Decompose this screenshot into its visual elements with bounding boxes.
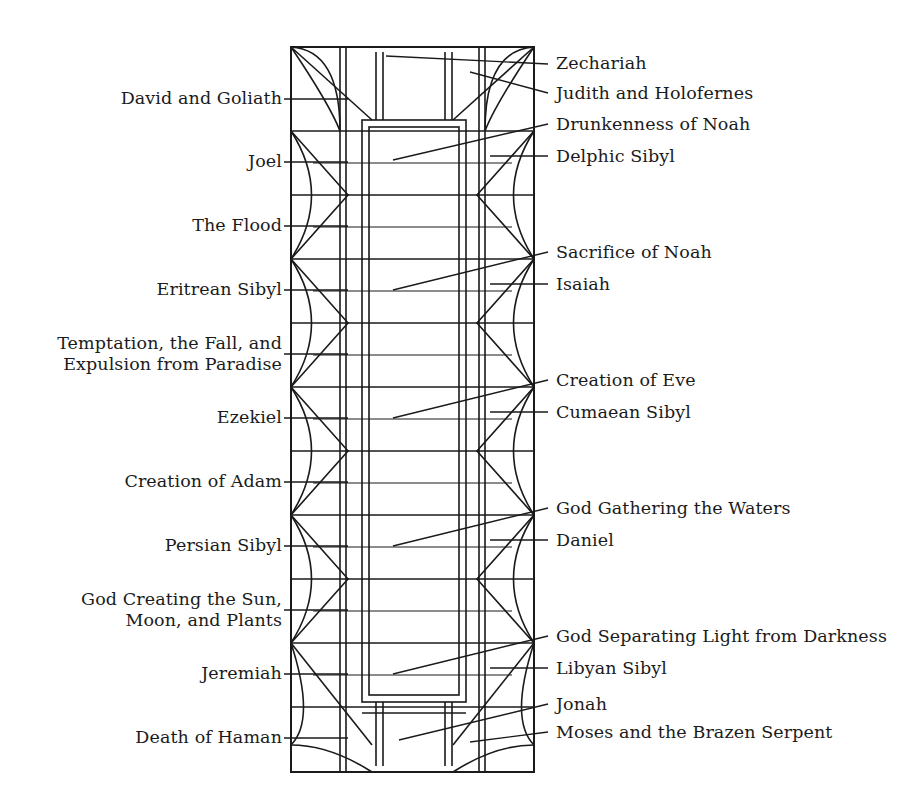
- label-daniel[interactable]: Daniel: [556, 530, 614, 551]
- label-joel[interactable]: Joel: [0, 151, 282, 172]
- label-zechariah[interactable]: Zechariah: [556, 53, 647, 74]
- label-death-of-haman[interactable]: Death of Haman: [0, 727, 282, 748]
- central-panel-frames: [362, 120, 466, 702]
- label-judith-and-holofernes[interactable]: Judith and Holofernes: [556, 83, 753, 104]
- label-the-flood[interactable]: The Flood: [0, 215, 282, 236]
- label-god-gathering-the-waters[interactable]: God Gathering the Waters: [556, 498, 791, 519]
- label-jonah[interactable]: Jonah: [556, 694, 607, 715]
- label-persian-sibyl[interactable]: Persian Sibyl: [0, 535, 282, 556]
- label-cumaean-sibyl[interactable]: Cumaean Sibyl: [556, 402, 691, 423]
- label-creation-of-adam[interactable]: Creation of Adam: [0, 471, 282, 492]
- label-moses-and-the-brazen-serpent[interactable]: Moses and the Brazen Serpent: [556, 722, 832, 743]
- left-spandrels: [291, 47, 372, 772]
- label-ezekiel[interactable]: Ezekiel: [0, 407, 282, 428]
- bay-inner-lines: [313, 163, 512, 675]
- label-delphic-sibyl[interactable]: Delphic Sibyl: [556, 146, 675, 167]
- ceiling-plan-svg: [0, 0, 922, 805]
- label-drunkenness-of-noah[interactable]: Drunkenness of Noah: [556, 114, 750, 135]
- label-jeremiah[interactable]: Jeremiah: [0, 663, 282, 684]
- label-temptation-fall-expulsion[interactable]: Temptation, the Fall, and Expulsion from…: [0, 333, 282, 375]
- label-creation-of-eve[interactable]: Creation of Eve: [556, 370, 696, 391]
- label-isaiah[interactable]: Isaiah: [556, 274, 610, 295]
- diagram-canvas: David and Goliath Joel The Flood Eritrea…: [0, 0, 922, 805]
- label-libyan-sibyl[interactable]: Libyan Sibyl: [556, 658, 667, 679]
- central-panel-end-caps: [362, 52, 466, 766]
- label-sacrifice-of-noah[interactable]: Sacrifice of Noah: [556, 242, 712, 263]
- label-god-separating-light-from-darkness[interactable]: God Separating Light from Darkness: [556, 626, 887, 647]
- label-god-creating-sun-moon-plants[interactable]: God Creating the Sun, Moon, and Plants: [0, 589, 282, 631]
- label-david-and-goliath[interactable]: David and Goliath: [0, 88, 282, 109]
- label-eritrean-sibyl[interactable]: Eritrean Sibyl: [0, 279, 282, 300]
